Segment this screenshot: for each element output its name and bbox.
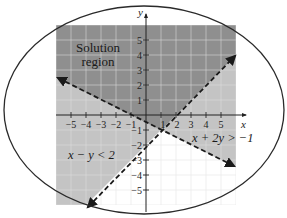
solution-region-label: Solution xyxy=(76,40,121,55)
x-tick-label: −2 xyxy=(111,119,122,130)
solution-region-label: region xyxy=(81,54,115,69)
y-tick-label: 1 xyxy=(137,95,142,106)
x-tick-label: −4 xyxy=(81,119,92,130)
x-tick-label: 4 xyxy=(204,119,209,130)
x-tick-label: 2 xyxy=(175,119,180,130)
y-tick-label: 4 xyxy=(137,50,142,61)
y-axis-label: y xyxy=(137,6,143,18)
y-tick-label: 5 xyxy=(137,35,142,46)
y-tick-label: −4 xyxy=(131,170,142,181)
x-tick-label: −5 xyxy=(66,119,77,130)
y-tick-label: −2 xyxy=(131,140,142,151)
x-tick-label: 3 xyxy=(189,119,194,130)
y-tick-label: −1 xyxy=(131,125,142,136)
y-tick-label: 3 xyxy=(137,65,142,76)
x-tick-label: 5 xyxy=(219,119,224,130)
inequality-graph: −5 −4 −3 −2 −1 1 2 3 4 5 5 4 3 2 1 −1 −2… xyxy=(0,0,287,218)
x-tick-label: 1 xyxy=(161,119,166,130)
y-tick-label: 2 xyxy=(137,80,142,91)
inequality-label-2: x + 2y > −1 xyxy=(191,131,253,145)
x-tick-label: −3 xyxy=(96,119,107,130)
inequality-label-1: x − y < 2 xyxy=(67,148,115,162)
x-axis-label: x xyxy=(240,118,246,130)
y-tick-label: −5 xyxy=(131,185,142,196)
